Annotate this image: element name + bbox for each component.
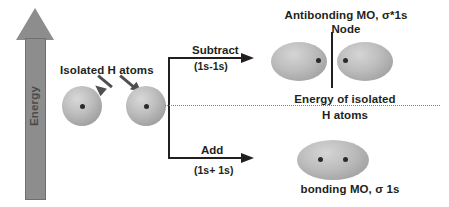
nucleus-dot [80,104,85,109]
atomic-orbital-2 [126,86,166,126]
bonding-mo-label: bonding MO, σ 1s [255,183,445,195]
node-label: Node [296,23,396,35]
nucleus-dot [144,104,149,109]
nucleus-dot [343,157,348,162]
add-sublabel: (1s+ 1s) [194,164,233,176]
energy-reference-label-line2: H atoms [322,109,368,121]
nucleus-dot [318,157,323,162]
energy-axis-label: Energy [28,66,40,146]
mo-diagram-canvas: Energy Isolated H atoms Subtract (1s-1s)… [0,0,449,207]
branch-connector-vertical [168,57,170,158]
energy-axis-arrow: Energy [14,8,58,200]
energy-reference-label-line1: Energy of isolated [294,93,396,105]
node-line [331,32,333,88]
add-arrowhead-icon [241,153,254,163]
subtract-label: Subtract [192,44,239,58]
energy-reference-label: Energy of isolated H atoms [255,91,435,123]
subtract-arrowhead-icon [241,53,254,63]
up-arrow-icon [16,8,54,40]
nucleus-dot [343,58,348,63]
atomic-orbital-1 [62,86,102,126]
bonding-mo-orbital [297,140,369,180]
antibonding-mo-label: Antibonding MO, σ*1s [256,8,436,23]
subtract-sublabel: (1s-1s) [194,60,228,72]
isolated-atoms-label: Isolated H atoms [60,64,154,76]
nucleus-dot [316,58,321,63]
add-label: Add [201,144,223,158]
